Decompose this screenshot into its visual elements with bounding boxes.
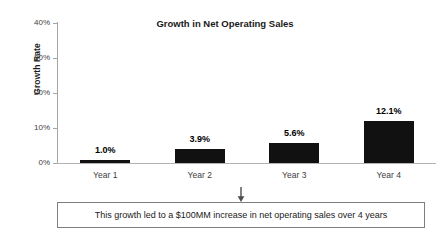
bar bbox=[269, 143, 319, 163]
y-axis-tick-label-text: 20% bbox=[14, 88, 50, 97]
y-axis-tick-label-text: 40% bbox=[14, 18, 50, 27]
bar-value-label: 3.9% bbox=[170, 134, 230, 144]
bar-value-label: 1.0% bbox=[75, 145, 135, 155]
x-axis-category-label: Year 2 bbox=[165, 170, 235, 180]
y-axis-tick-mark bbox=[53, 23, 57, 24]
down-arrow-icon bbox=[234, 187, 248, 202]
chart-screenshot: Growth Rate 0%10%20%30%40% Growth in Net… bbox=[0, 0, 446, 243]
y-axis-line bbox=[57, 22, 58, 164]
x-axis-category-label: Year 1 bbox=[70, 170, 140, 180]
y-axis-tick-label-text: 10% bbox=[14, 123, 50, 132]
chart-title: Growth in Net Operating Sales bbox=[110, 18, 340, 29]
y-axis-tick-label-text: 0% bbox=[14, 158, 50, 167]
x-axis-category-label: Year 3 bbox=[259, 170, 329, 180]
y-axis-tick-mark bbox=[53, 93, 57, 94]
y-axis-tick-label: 30% bbox=[14, 53, 50, 63]
bar bbox=[364, 121, 414, 163]
callout-box: This growth led to a $100MM increase in … bbox=[57, 202, 425, 228]
bar bbox=[175, 149, 225, 163]
bar bbox=[80, 160, 130, 164]
y-axis-tick-label-text: 30% bbox=[14, 53, 50, 62]
y-axis-tick-label: 40% bbox=[14, 18, 50, 28]
callout-text: This growth led to a $100MM increase in … bbox=[95, 210, 388, 220]
bar-value-label: 12.1% bbox=[359, 106, 419, 116]
y-axis-tick-label: 0% bbox=[14, 158, 50, 168]
bar-value-label: 5.6% bbox=[264, 128, 324, 138]
y-axis-tick-mark bbox=[53, 58, 57, 59]
x-axis-category-label: Year 4 bbox=[354, 170, 424, 180]
y-axis-tick-mark bbox=[53, 128, 57, 129]
y-axis-tick-label: 10% bbox=[14, 123, 50, 133]
y-axis-tick-label: 20% bbox=[14, 88, 50, 98]
x-axis-line bbox=[57, 163, 436, 164]
